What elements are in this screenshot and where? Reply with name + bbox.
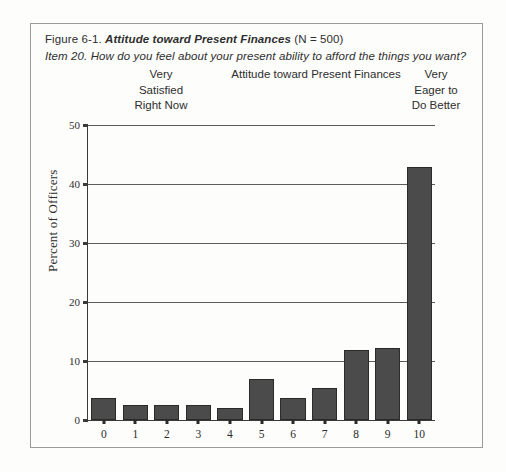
figure-frame: Figure 6-1. Attitude toward Present Fina… <box>30 23 483 448</box>
x-tick-label: 7 <box>322 428 328 440</box>
x-tick <box>102 420 105 424</box>
x-tick <box>418 420 421 424</box>
bar <box>186 405 211 420</box>
bar <box>154 405 179 420</box>
y-tick-label: 30 <box>69 237 80 249</box>
x-tick <box>228 420 231 424</box>
x-tick-label: 6 <box>290 428 296 440</box>
x-tick <box>134 420 137 424</box>
x-tick <box>355 420 358 424</box>
y-tick-label: 20 <box>69 296 80 308</box>
bar <box>91 398 116 420</box>
y-tick-label: 0 <box>75 414 81 426</box>
bar <box>312 388 337 420</box>
x-tick <box>197 420 200 424</box>
bar <box>217 408 242 420</box>
y-tick-label: 10 <box>69 355 80 367</box>
x-tick <box>386 420 389 424</box>
bar <box>123 405 148 420</box>
x-tick <box>292 420 295 424</box>
x-tick-label: 1 <box>132 428 138 440</box>
x-tick-label: 3 <box>196 428 202 440</box>
bar <box>344 350 369 420</box>
y-tick-label: 40 <box>69 178 80 190</box>
x-tick-label: 8 <box>353 428 359 440</box>
x-tick-label: 9 <box>385 428 391 440</box>
x-tick-label: 0 <box>101 428 107 440</box>
y-tick-label: 50 <box>69 119 80 131</box>
x-tick-label: 10 <box>413 428 425 440</box>
bar-series <box>88 125 435 420</box>
x-tick <box>165 420 168 424</box>
x-tick-label: 5 <box>259 428 265 440</box>
plot-wrapper: Percent of Officers 01020304050 01234567… <box>31 24 482 447</box>
bar <box>280 398 305 420</box>
x-tick-label: 2 <box>164 428 170 440</box>
x-tick-label: 4 <box>227 428 233 440</box>
bar <box>375 348 400 420</box>
bar <box>249 379 274 420</box>
x-tick <box>260 420 263 424</box>
x-tick <box>323 420 326 424</box>
plot-area: 01020304050 012345678910 <box>87 125 435 421</box>
bar <box>407 167 432 420</box>
y-axis-title: Percent of Officers <box>45 170 61 272</box>
